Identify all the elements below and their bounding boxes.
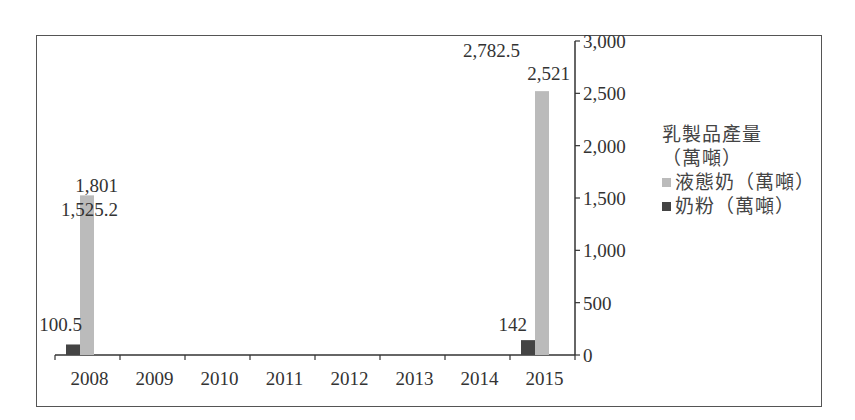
x-tick-label: 2013: [396, 368, 434, 389]
data-labels: 1,8011,525.2100.52,782.52,521142: [39, 40, 570, 335]
y-axis: 05001,0001,5002,0002,5003,000: [575, 31, 626, 366]
x-tick-label: 2010: [201, 368, 239, 389]
x-tick-label: 2012: [331, 368, 369, 389]
legend-title: 乳製品產量: [662, 122, 815, 146]
x-tick-label: 2008: [71, 368, 109, 389]
y-tick-label: 3,000: [583, 31, 626, 52]
x-axis: 20082009201020112012201320142015: [55, 355, 575, 389]
data-label: 2,782.5: [463, 40, 520, 61]
bar: [66, 344, 80, 355]
legend-label: 奶粉（萬噸）: [675, 194, 795, 218]
legend-item-liquid-milk: 液態奶（萬噸）: [662, 170, 815, 194]
data-label: 142: [499, 314, 528, 335]
y-tick-label: 2,000: [583, 136, 626, 157]
bars: [66, 91, 549, 355]
legend-title-unit: （萬噸）: [662, 146, 815, 170]
legend-swatch-icon: [662, 178, 671, 187]
x-tick-label: 2014: [461, 368, 500, 389]
data-label: 2,521: [527, 63, 570, 84]
data-label: 1,525.2: [61, 199, 118, 220]
legend-item-milk-powder: 奶粉（萬噸）: [662, 194, 815, 218]
y-tick-label: 0: [583, 345, 593, 366]
x-tick-label: 2011: [266, 368, 303, 389]
data-label: 100.5: [39, 314, 82, 335]
data-label: 1,801: [75, 175, 118, 196]
y-tick-label: 1,500: [583, 188, 626, 209]
legend-label: 液態奶（萬噸）: [675, 170, 815, 194]
x-tick-label: 2009: [136, 368, 174, 389]
bar: [535, 91, 549, 355]
legend: 乳製品產量 （萬噸） 液態奶（萬噸） 奶粉（萬噸）: [662, 122, 815, 218]
y-tick-label: 1,000: [583, 240, 626, 261]
y-tick-label: 2,500: [583, 83, 626, 104]
x-tick-label: 2015: [526, 368, 564, 389]
bar: [521, 340, 535, 355]
y-tick-label: 500: [583, 293, 612, 314]
legend-swatch-icon: [662, 202, 671, 211]
